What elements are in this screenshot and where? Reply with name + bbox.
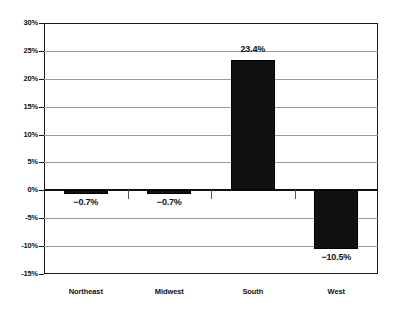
x-axis-category-label: South	[242, 288, 263, 296]
bar	[314, 190, 358, 249]
category-separator-tick	[211, 190, 212, 199]
bar-chart: 30%25%20%15%10%5%0%-5%-10%-15% −0.7%−0.7…	[0, 0, 395, 315]
gridline	[44, 51, 378, 52]
gridline	[44, 135, 378, 136]
y-axis-tick-label: 25%	[24, 47, 38, 55]
y-axis-tick	[39, 79, 44, 80]
gridline	[44, 107, 378, 108]
data-label: −0.7%	[73, 198, 98, 207]
y-axis-tick	[39, 107, 44, 108]
category-separator-tick	[128, 190, 129, 199]
x-axis-category-label: West	[328, 288, 345, 296]
y-axis-tick-label: 5%	[28, 159, 38, 167]
x-axis-category-label: Midwest	[155, 288, 184, 296]
y-axis-tick-label: 0%	[28, 187, 38, 195]
data-label: −10.5%	[321, 253, 351, 262]
x-axis-category-label: Northeast	[69, 288, 103, 296]
y-axis-tick-label: -10%	[21, 242, 38, 250]
y-axis-tick-label: 15%	[24, 103, 38, 111]
y-axis-tick	[39, 246, 44, 247]
y-axis-tick-label: 20%	[24, 75, 38, 83]
gridline	[44, 162, 378, 163]
y-axis-tick	[39, 218, 44, 219]
y-axis-tick	[39, 51, 44, 52]
y-axis-tick-label: -5%	[25, 214, 38, 222]
y-axis-tick-label: 10%	[24, 131, 38, 139]
y-axis-tick	[39, 274, 44, 275]
bar	[231, 60, 275, 191]
y-axis-tick-label: -15%	[21, 270, 38, 278]
data-label: −0.7%	[157, 198, 182, 207]
gridline	[44, 79, 378, 80]
y-axis-tick-label: 30%	[24, 19, 38, 27]
y-axis-tick	[39, 190, 44, 191]
y-axis-tick	[39, 23, 44, 24]
bar	[64, 190, 108, 194]
bar	[147, 190, 191, 194]
y-axis-tick	[39, 162, 44, 163]
y-axis-tick	[39, 135, 44, 136]
data-label: 23.4%	[240, 45, 265, 54]
category-separator-tick	[295, 190, 296, 199]
